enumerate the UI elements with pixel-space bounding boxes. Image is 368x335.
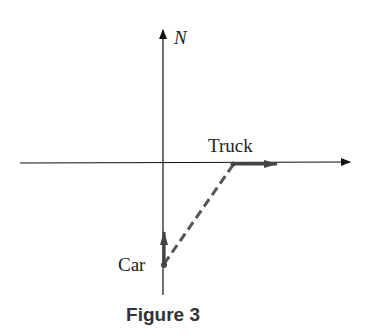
- truck-label: Truck: [208, 135, 253, 156]
- east-axis: [20, 162, 350, 163]
- car-label: Car: [118, 254, 146, 275]
- truck-position-dot: [231, 162, 236, 167]
- vector-diagram: N Truck Car: [0, 0, 368, 335]
- north-label: N: [173, 27, 188, 48]
- figure-caption: Figure 3: [0, 304, 326, 326]
- relative-displacement-dashed-line: [164, 165, 233, 264]
- car-position-dot: [161, 262, 167, 268]
